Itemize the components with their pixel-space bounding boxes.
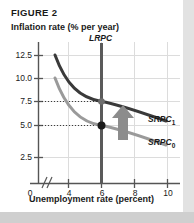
srpc0-label-subscript: 0 bbox=[172, 142, 176, 149]
x-axis-title: Unemployment rate (percent) bbox=[0, 194, 183, 204]
y-tick-label-5-0: 5.0 bbox=[4, 120, 32, 130]
panel-edge-right bbox=[183, 0, 194, 212]
curve-srpc1 bbox=[55, 55, 166, 121]
panel-edge-bottom bbox=[0, 212, 194, 223]
equilibrium-point-upper bbox=[98, 98, 105, 105]
figure-container: FIGURE 2 Inflation rate (% per year) bbox=[0, 0, 194, 223]
srpc0-label-text: SRPC bbox=[148, 137, 172, 147]
lrpc-label: LRPC bbox=[89, 33, 112, 43]
equilibrium-point-lower bbox=[98, 122, 106, 130]
chart-plot-area bbox=[0, 0, 183, 212]
srpc1-label-text: SRPC bbox=[148, 114, 172, 124]
axis-break-marks bbox=[42, 177, 52, 188]
figure-panel: FIGURE 2 Inflation rate (% per year) bbox=[0, 0, 183, 212]
y-tick-label-10-0: 10.0 bbox=[4, 73, 32, 83]
y-tick-label-12-5: 12.5 bbox=[4, 50, 32, 60]
srpc1-label-subscript: 1 bbox=[172, 119, 176, 126]
y-tick-label-7-5: 7.5 bbox=[4, 96, 32, 106]
srpc0-label: SRPC0 bbox=[148, 137, 175, 149]
srpc1-label: SRPC1 bbox=[148, 114, 175, 126]
y-tick-label-2-5: 2.5 bbox=[4, 152, 32, 162]
curve-srpc0 bbox=[55, 78, 166, 145]
